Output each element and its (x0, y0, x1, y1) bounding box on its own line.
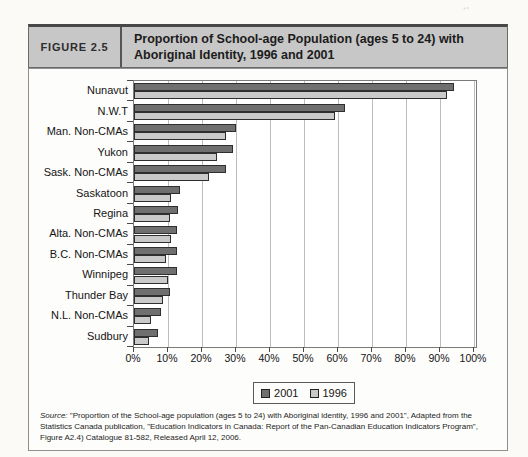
category-label: B.C. Non-CMAs (28, 246, 128, 262)
gridline (304, 81, 305, 347)
x-axis-label: 80% (387, 352, 423, 364)
figure-page: ·· FIGURE 2.5 Proportion of School-age P… (0, 0, 528, 457)
legend-item-2001: 2001 (261, 387, 298, 399)
x-axis-label: 100% (455, 352, 491, 364)
y-axis-tick (127, 223, 133, 224)
bar-2001-thunder-bay (134, 288, 170, 296)
bar-1996-nunavut (134, 91, 447, 99)
bar-1996-winnipeg (134, 276, 168, 284)
bar-2001-man-non-cmas (134, 124, 236, 132)
x-axis-label: 60% (319, 352, 355, 364)
y-axis-tick (127, 203, 133, 204)
scan-artifact: ·· (462, 1, 479, 14)
y-axis-tick (127, 162, 133, 163)
legend-label-1996: 1996 (323, 387, 347, 399)
source-text: "Proportion of the School-age population… (40, 411, 478, 442)
gridline (270, 81, 271, 347)
y-axis-tick (127, 326, 133, 327)
category-label: Yukon (28, 144, 128, 160)
category-label: Saskatoon (28, 185, 128, 201)
x-axis-label: 40% (251, 352, 287, 364)
category-label: Regina (28, 205, 128, 221)
gridline (202, 81, 203, 347)
gridline (372, 81, 373, 347)
bar-2001-sask-non-cmas (134, 165, 226, 173)
figure-number-label: FIGURE 2.5 (29, 27, 122, 67)
legend-swatch-2001 (261, 389, 270, 398)
y-axis-tick (127, 264, 133, 265)
legend-swatch-1996 (310, 389, 319, 398)
bar-2001-yukon (134, 145, 233, 153)
bar-2001-saskatoon (134, 186, 180, 194)
source-note: Source: "Proportion of the School-age po… (40, 411, 498, 443)
bar-1996-regina (134, 214, 170, 222)
source-prefix: Source: (40, 411, 68, 420)
bar-1996-sask-non-cmas (134, 173, 209, 181)
x-axis-label: 20% (183, 352, 219, 364)
bar-1996-thunder-bay (134, 296, 163, 304)
gridline (474, 81, 475, 347)
category-label: Thunder Bay (28, 287, 128, 303)
category-label: N.W.T (28, 103, 128, 119)
gridline (440, 81, 441, 347)
x-axis-label: 30% (217, 352, 253, 364)
category-label: N.L. Non-CMAs (28, 307, 128, 323)
bar-1996-sudbury (134, 337, 149, 345)
bar-2001-winnipeg (134, 267, 177, 275)
figure-title-text: Proportion of School-age Population (age… (134, 31, 486, 63)
category-label: Nunavut (28, 82, 128, 98)
y-axis-tick (127, 285, 133, 286)
category-label: Winnipeg (28, 266, 128, 282)
x-axis-label: 10% (149, 352, 185, 364)
y-axis-tick (127, 80, 133, 81)
bar-2001-n-l-non-cmas (134, 308, 161, 316)
bar-2001-alta-non-cmas (134, 226, 177, 234)
bar-2001-regina (134, 206, 178, 214)
y-axis-tick (127, 244, 133, 245)
y-axis-tick (127, 121, 133, 122)
x-axis-label: 0% (115, 352, 151, 364)
legend-item-1996: 1996 (310, 387, 347, 399)
bar-2001-sudbury (134, 329, 158, 337)
category-label: Man. Non-CMAs (28, 123, 128, 139)
legend-label-2001: 2001 (274, 387, 298, 399)
y-axis-tick (127, 100, 133, 101)
bar-1996-n-l-non-cmas (134, 316, 151, 324)
gridline (406, 81, 407, 347)
legend: 2001 1996 (253, 382, 355, 404)
gridline (338, 81, 339, 347)
bar-1996-man-non-cmas (134, 132, 226, 140)
bar-1996-saskatoon (134, 194, 171, 202)
x-axis-label: 90% (421, 352, 457, 364)
x-axis-label: 50% (285, 352, 321, 364)
plot-area (133, 80, 477, 348)
y-axis-tick (127, 182, 133, 183)
y-axis-tick (127, 305, 133, 306)
bar-1996-n-w-t (134, 112, 335, 120)
bar-1996-b-c-non-cmas (134, 255, 166, 263)
gridline (236, 81, 237, 347)
category-label: Sask. Non-CMAs (28, 164, 128, 180)
bar-1996-alta-non-cmas (134, 235, 171, 243)
figure-header: FIGURE 2.5 Proportion of School-age Popu… (28, 24, 508, 68)
y-axis-tick (127, 141, 133, 142)
x-axis-label: 70% (353, 352, 389, 364)
bar-2001-n-w-t (134, 104, 345, 112)
bar-2001-b-c-non-cmas (134, 247, 177, 255)
bar-2001-nunavut (134, 83, 454, 91)
figure-title: Proportion of School-age Population (age… (122, 27, 507, 67)
category-label: Sudbury (28, 328, 128, 344)
category-label: Alta. Non-CMAs (28, 225, 128, 241)
bar-1996-yukon (134, 153, 217, 161)
